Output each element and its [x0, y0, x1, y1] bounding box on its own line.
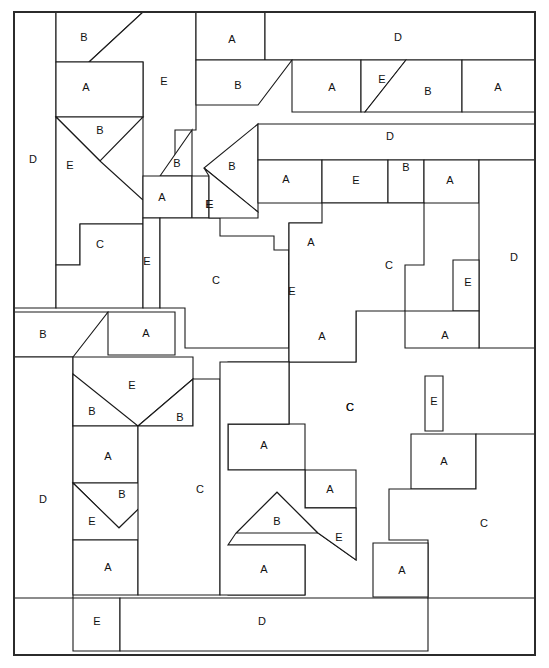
piece-a-p40[interactable] [73, 426, 138, 483]
piece-a-p09[interactable] [143, 176, 192, 218]
piece-d-p14[interactable] [265, 12, 535, 60]
piece-a-p04[interactable] [56, 62, 143, 117]
piece-a-p35[interactable] [108, 312, 175, 355]
piece-d-p27[interactable] [479, 160, 535, 348]
piece-e-p45[interactable] [73, 598, 120, 651]
piece-b-p34[interactable] [14, 312, 108, 357]
piece-a-p16[interactable] [292, 60, 361, 112]
piece-label: C [346, 401, 354, 413]
piece-d-p46[interactable] [120, 598, 428, 651]
piece-d-p21[interactable] [258, 124, 535, 160]
piece-a-p48[interactable] [305, 470, 356, 508]
packing-diagram: DBEABECBAEECADBAEBABDEAEBADAEACEABADEBBA… [0, 0, 549, 668]
piece-a-p26[interactable] [424, 160, 479, 203]
piece-e-p53[interactable] [425, 376, 443, 431]
piece-label: C [346, 401, 354, 413]
piece-c-p31[interactable] [289, 203, 424, 362]
piece-a-p19[interactable] [462, 60, 535, 112]
piece-a-p43[interactable] [73, 540, 138, 595]
piece-b-p15[interactable] [196, 60, 292, 105]
piece-e-p32[interactable] [453, 260, 479, 311]
piece-a-p47[interactable] [228, 424, 305, 470]
piece-e-p24[interactable] [322, 160, 388, 203]
piece-c-p12[interactable] [160, 218, 289, 348]
piece-a-p54[interactable] [411, 434, 476, 489]
piece-d-p01[interactable] [14, 12, 56, 308]
piece-e-p11[interactable] [192, 176, 209, 218]
pieces-layer [14, 12, 535, 651]
piece-a-p56[interactable] [373, 543, 428, 597]
piece-a-p13[interactable] [196, 12, 265, 60]
piece-a-p33[interactable] [405, 311, 479, 348]
piece-e-p10[interactable] [143, 218, 160, 308]
piece-d-p36[interactable] [14, 357, 73, 598]
piece-b-p25[interactable] [388, 160, 424, 203]
piece-a-p23[interactable] [258, 160, 322, 203]
